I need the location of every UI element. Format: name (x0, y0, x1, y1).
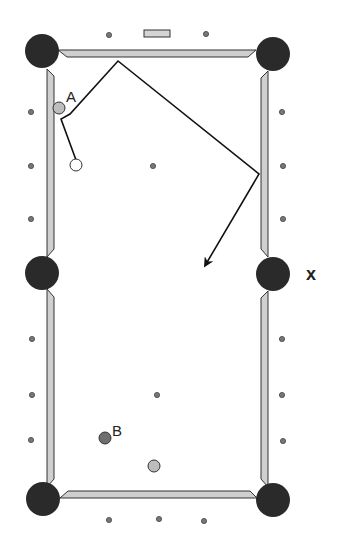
target-pocket-x-label: X (306, 264, 316, 285)
ball-light (148, 460, 160, 472)
pocket-bottom-right (256, 483, 290, 517)
rail-bottom (60, 491, 257, 498)
balls (53, 102, 160, 472)
ball-a-label: A (66, 88, 76, 105)
pocket-bottom-left (26, 482, 60, 516)
diamond-marker (106, 32, 111, 37)
diamond-marker (28, 437, 33, 442)
diamond-marker (29, 392, 34, 397)
head-marker (144, 30, 170, 37)
diamond-marker (29, 336, 34, 341)
diamond-marker (279, 336, 284, 341)
pocket-mid-left (25, 256, 59, 290)
diamond-marker (280, 438, 285, 443)
ball-b (99, 432, 111, 444)
shot-path-arrow (61, 61, 259, 264)
rail-right-lower (261, 291, 268, 487)
table-spots (150, 163, 159, 397)
diamond-marker (201, 518, 206, 523)
diamond-marker (279, 109, 284, 114)
diamond-marker (106, 517, 111, 522)
table-drawing (0, 0, 338, 553)
table-spot (154, 392, 159, 397)
diamond-marker (280, 216, 285, 221)
rail-top (58, 50, 256, 57)
ball-b-label: B (112, 422, 122, 439)
diamond-marker (203, 31, 208, 36)
table-spot (150, 163, 155, 168)
diamond-marker (28, 163, 33, 168)
diamonds (28, 31, 285, 523)
diamond-marker (279, 392, 284, 397)
pocket-top-left (25, 34, 59, 68)
rail-left-upper (47, 69, 54, 257)
cue-ball (70, 159, 82, 171)
pocket-mid-right (256, 257, 290, 291)
diamond-marker (280, 163, 285, 168)
ball-a (53, 102, 65, 114)
diamond-marker (28, 216, 33, 221)
rail-right-upper (261, 71, 268, 257)
rails (47, 50, 268, 498)
rail-left-lower (47, 289, 54, 487)
diamond-marker (156, 516, 161, 521)
billiard-diagram: A B X (0, 0, 338, 553)
diamond-marker (28, 109, 33, 114)
pocket-top-right (256, 37, 290, 71)
